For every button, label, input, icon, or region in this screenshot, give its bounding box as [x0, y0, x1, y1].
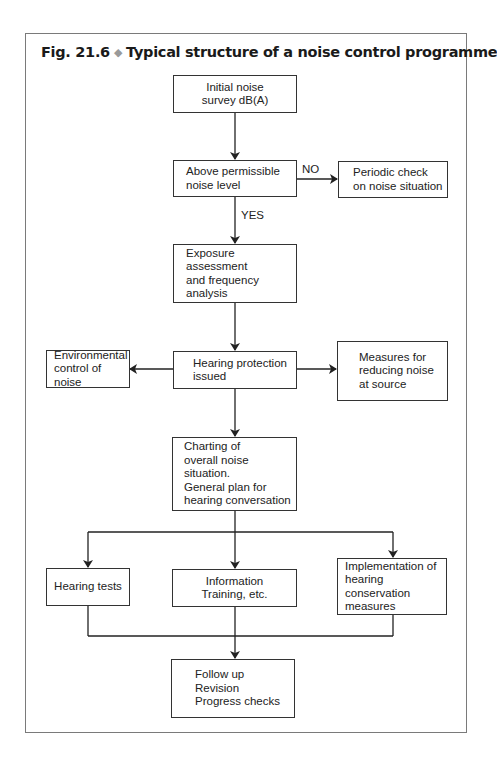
node-environmental-control: Environmental control of noise [46, 350, 130, 388]
node-label: Hearing protection issued [193, 357, 287, 384]
node-label: Initial noise survey dB(A) [202, 81, 268, 108]
node-label: Environmental control of noise [54, 349, 129, 390]
edge-label-no: NO [302, 163, 319, 175]
node-label: Above permissible noise level [186, 165, 280, 192]
node-label: Periodic check on noise situation [353, 166, 443, 193]
node-measures-source: Measures for reducing noise at source [337, 341, 448, 401]
node-hearing-protection: Hearing protection issued [173, 351, 297, 389]
node-initial-survey: Initial noise survey dB(A) [173, 75, 297, 113]
node-label: Measures for reducing noise at source [359, 351, 434, 392]
node-label: Follow up Revision Progress checks [195, 668, 280, 709]
node-label: Implementation of hearing conservation m… [345, 560, 446, 614]
node-above-permissible: Above permissible noise level [173, 160, 297, 197]
node-periodic-check: Periodic check on noise situation [338, 161, 448, 198]
node-exposure-assessment: Exposure assessment and frequency analys… [173, 244, 297, 303]
node-hearing-tests: Hearing tests [46, 568, 130, 606]
node-label: Exposure assessment and frequency analys… [186, 247, 296, 301]
node-information-training: Information Training, etc. [172, 569, 297, 607]
node-label: Information Training, etc. [201, 575, 267, 602]
node-charting: Charting of overall noise situation. Gen… [172, 437, 297, 511]
node-label: Charting of overall noise situation. Gen… [184, 440, 296, 508]
node-follow-up: Follow up Revision Progress checks [171, 659, 295, 718]
node-implementation: Implementation of hearing conservation m… [337, 558, 447, 615]
edge-label-yes: YES [241, 209, 264, 221]
node-label: Hearing tests [54, 580, 122, 594]
